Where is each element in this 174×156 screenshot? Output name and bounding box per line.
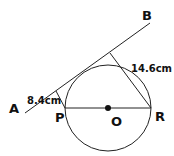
label-r: R — [155, 109, 165, 124]
label-a: A — [9, 101, 19, 116]
measurement-8-4cm: 8.4cm — [27, 95, 61, 106]
center-point-o — [105, 105, 111, 111]
geometry-diagram: A B P O R 8.4cm 14.6cm — [0, 0, 174, 156]
perpendicular-from-r — [110, 53, 151, 108]
label-p: P — [55, 110, 65, 125]
label-b: B — [142, 8, 152, 23]
measurement-14-6cm: 14.6cm — [131, 63, 172, 74]
label-o: O — [111, 114, 122, 129]
